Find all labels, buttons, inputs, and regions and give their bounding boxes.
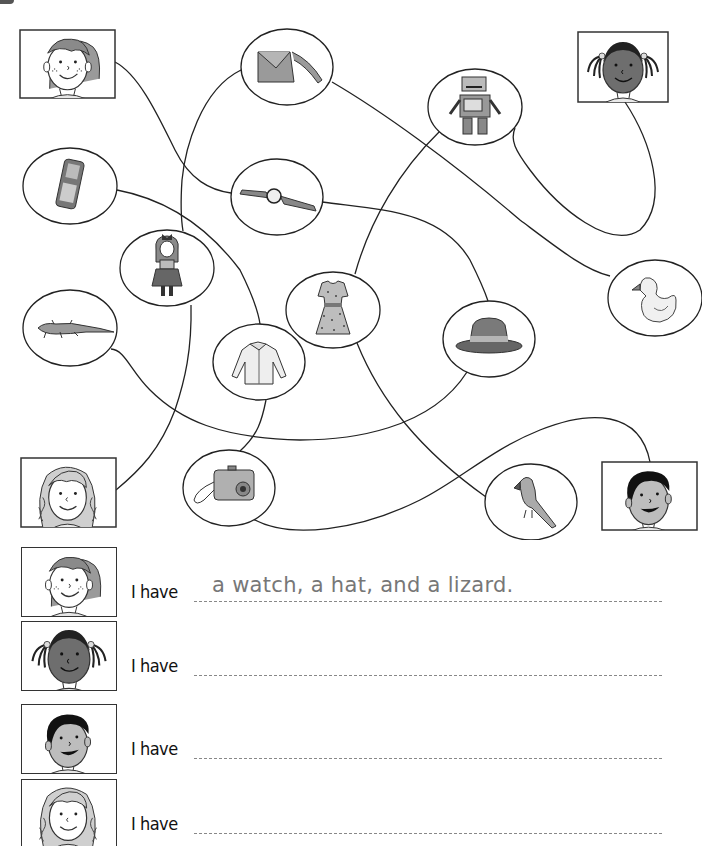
item-bag[interactable]: [241, 29, 333, 105]
item-lizard[interactable]: [23, 290, 117, 366]
face-girl-curly[interactable]: [21, 458, 116, 527]
answer-row-boy-dark-hair: I have: [0, 704, 702, 776]
item-dress[interactable]: [286, 272, 380, 348]
item-camera[interactable]: [183, 450, 275, 526]
answer-row-girl-pigtails: I have: [0, 621, 702, 693]
answer-line[interactable]: [194, 675, 662, 676]
answer-label: I have: [131, 813, 178, 834]
item-shirt[interactable]: [213, 324, 305, 400]
answer-face-girl-pigtails: [21, 621, 117, 691]
answer-label: I have: [131, 655, 178, 676]
answer-face-girl-curly: [21, 779, 117, 846]
face-boy-dark-hair[interactable]: [602, 462, 697, 531]
answer-row-boy-freckles: I have a watch, a hat, and a lizard.: [0, 547, 702, 619]
answer-row-girl-curly: I have: [0, 779, 702, 846]
item-doll[interactable]: [120, 230, 214, 306]
face-boy-freckles[interactable]: [20, 30, 115, 99]
item-duck[interactable]: [608, 260, 702, 336]
answer-label: I have: [131, 581, 178, 602]
matching-puzzle: [0, 0, 702, 540]
answer-line[interactable]: [194, 833, 662, 834]
item-parrot[interactable]: [485, 464, 577, 540]
item-robot[interactable]: [428, 69, 522, 145]
answer-line[interactable]: [194, 758, 662, 759]
answer-text[interactable]: a watch, a hat, and a lizard.: [212, 573, 514, 597]
answer-label: I have: [131, 738, 178, 759]
item-watch[interactable]: [231, 159, 323, 235]
item-phone[interactable]: [23, 148, 117, 224]
answer-line[interactable]: [194, 601, 662, 602]
face-girl-pigtails[interactable]: [578, 32, 668, 102]
item-hat[interactable]: [443, 301, 535, 377]
answer-face-boy-freckles: [21, 547, 117, 617]
answer-face-boy-dark-hair: [21, 704, 117, 774]
